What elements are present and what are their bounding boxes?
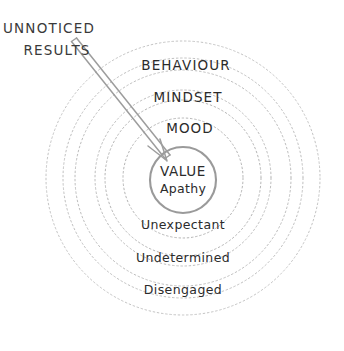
ring-label-mindset: MINDSET xyxy=(153,89,222,105)
ring-label-undetermined: Undetermined xyxy=(136,250,230,265)
core-label-value: VALUE xyxy=(160,163,206,179)
core-circle xyxy=(150,147,216,213)
callout-line-2: RESULTS xyxy=(23,42,90,58)
core-label-apathy: Apathy xyxy=(160,181,206,196)
diagram-canvas: BEHAVIOUR MINDSET MOOD Unexpectant Undet… xyxy=(0,0,344,351)
ring-label-disengaged: Disengaged xyxy=(144,282,222,297)
ring-label-unexpectant: Unexpectant xyxy=(141,217,225,232)
ring-label-mood: MOOD xyxy=(166,120,214,136)
callout-line-1: UNNOTICED xyxy=(3,20,95,36)
concentric-rings-diagram: BEHAVIOUR MINDSET MOOD Unexpectant Undet… xyxy=(0,0,344,351)
ring-label-behaviour: BEHAVIOUR xyxy=(141,57,230,73)
